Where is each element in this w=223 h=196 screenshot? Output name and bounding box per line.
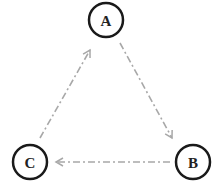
node-b-label: B bbox=[188, 155, 198, 171]
node-b: B bbox=[176, 145, 210, 179]
node-c: C bbox=[13, 145, 47, 179]
edge-a-to-b bbox=[120, 43, 172, 138]
edge-c-to-a bbox=[40, 50, 90, 138]
node-a-label: A bbox=[101, 13, 112, 29]
node-c-label: C bbox=[25, 155, 36, 171]
node-a: A bbox=[89, 3, 123, 37]
cycle-diagram: A B C bbox=[0, 0, 223, 196]
